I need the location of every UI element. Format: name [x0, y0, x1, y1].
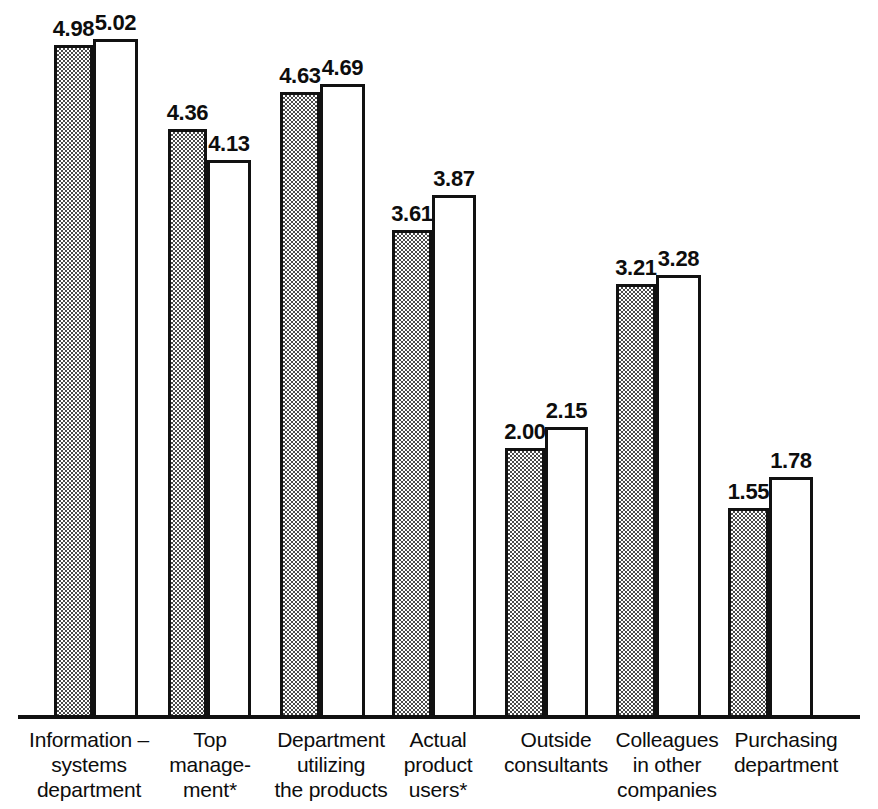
category-label-1: Information –systemsdepartment: [14, 727, 164, 802]
bar-1-open: [93, 39, 138, 718]
category-label-line: users*: [378, 777, 498, 802]
category-label-line: department: [706, 752, 866, 777]
category-label-line: Information –: [14, 727, 164, 752]
bar-2-shaded: [168, 129, 207, 718]
bar-2-open: [207, 160, 251, 718]
value-label-7-open: 1.78: [761, 448, 821, 474]
value-label-2-open: 4.13: [199, 131, 259, 157]
category-labels: Information –systemsdepartmentTopmanage-…: [0, 727, 878, 809]
category-label-line: department: [14, 777, 164, 802]
value-label-2-shaded: 4.36: [160, 100, 215, 126]
bar-4-open: [432, 195, 476, 718]
bar-7-open: [769, 477, 813, 718]
plot-area: 4.985.024.364.134.634.693.613.872.002.15…: [0, 0, 878, 722]
category-label-7: Purchasingdepartment: [706, 727, 866, 777]
bar-5-shaded: [505, 448, 545, 718]
bar-6-open: [656, 275, 701, 718]
bar-4-shaded: [392, 230, 432, 718]
bar-7-shaded: [728, 508, 769, 718]
category-label-line: companies: [592, 777, 742, 802]
bar-chart: 4.985.024.364.134.634.693.613.872.002.15…: [0, 0, 878, 809]
bar-3-shaded: [280, 92, 320, 718]
value-label-6-open: 3.28: [648, 246, 709, 272]
bar-5-open: [545, 427, 588, 718]
category-label-line: Purchasing: [706, 727, 866, 752]
value-label-1-open: 5.02: [85, 10, 146, 36]
bar-6-shaded: [616, 284, 656, 718]
bar-1-shaded: [54, 45, 93, 718]
bar-3-open: [320, 84, 365, 718]
category-label-line: systems: [14, 752, 164, 777]
value-label-3-open: 4.69: [312, 55, 373, 81]
value-label-5-open: 2.15: [537, 398, 596, 424]
value-label-4-open: 3.87: [424, 166, 484, 192]
